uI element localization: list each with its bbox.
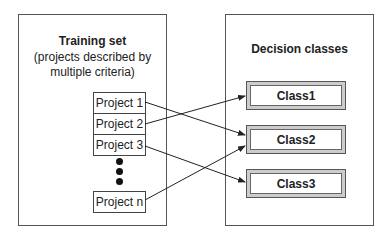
arrow-project3-class3: [145, 146, 245, 182]
arrow-project1-class2: [145, 102, 245, 135]
arrow-project2-class1: [145, 96, 245, 124]
mapping-arrows: [0, 0, 391, 237]
arrow-projectn-class2: [145, 146, 245, 200]
